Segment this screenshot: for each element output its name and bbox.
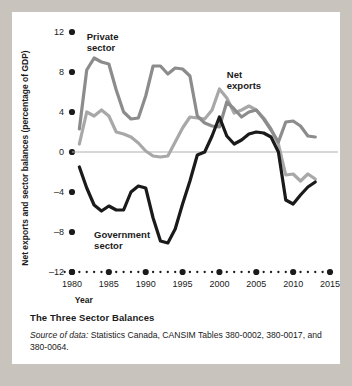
x-tick-label: 2015 [320,279,340,289]
x-tick-label: 1980 [62,279,82,289]
x-axis-dot [189,271,191,273]
x-axis-dot [233,271,235,273]
x-axis-dot [204,271,206,273]
x-axis-dot [63,271,65,273]
x-axis-dot [167,271,169,273]
x-tick-marker [69,269,75,275]
y-tick-label: 4 [59,107,64,117]
y-tick-marker [69,69,75,75]
x-tick-marker [253,269,259,275]
x-axis-dot [174,271,176,273]
x-tick-label: 1985 [99,279,119,289]
y-tick-label: 0 [59,147,64,157]
x-axis-dot [159,271,161,273]
y-axis-title: Net exports and sector balances (percent… [20,50,30,266]
x-tick-marker [106,269,112,275]
x-tick-label: 2000 [209,279,229,289]
series-annotation-government-sector: Governmentsector [94,229,151,251]
x-tick-marker [216,269,222,275]
x-axis-dot [78,271,80,273]
x-axis-dot [152,271,154,273]
x-tick-label: 2005 [246,279,266,289]
caption-source: Source of data: Statistics Canada, CANSI… [30,330,330,354]
x-axis-dot [307,271,309,273]
x-axis-dot [115,271,117,273]
x-tick-marker [327,269,333,275]
figure-caption: The Three Sector Balances Source of data… [30,312,330,354]
y-tick-marker [69,109,75,115]
x-axis-dot [248,271,250,273]
x-axis-dot [226,271,228,273]
x-axis-dot [321,271,323,273]
y-tick-marker [69,29,75,35]
x-axis-dot [86,271,88,273]
y-tick-label: –8 [54,227,64,237]
x-tick-marker [290,269,296,275]
x-axis-dot [93,271,95,273]
x-tick-marker [143,269,149,275]
x-axis-dot [211,271,213,273]
series-annotation-private-sector: Privatesector [87,31,119,53]
x-axis-dot [277,271,279,273]
series-annotation-net-exports: Netexports [227,69,261,91]
y-tick-label: –12 [49,267,64,277]
x-axis-dot [299,271,301,273]
three-sector-balances-chart: 12840–4–8–12Net exports and sector balan… [12,12,340,312]
x-axis-dot [240,271,242,273]
y-tick-label: –4 [54,187,64,197]
source-lead: Source of data: [30,330,88,340]
y-axis: 12840–4–8–12 [49,27,75,277]
x-axis-dot [285,271,287,273]
x-tick-marker [179,269,185,275]
x-axis-dot [130,271,132,273]
x-tick-label: 1990 [136,279,156,289]
x-axis-dot [314,271,316,273]
x-tick-label: 2010 [283,279,303,289]
x-axis-title: Year [75,295,94,305]
figure-panel: 12840–4–8–12Net exports and sector balan… [12,12,340,364]
x-axis-dot [263,271,265,273]
x-tick-label: 1995 [173,279,193,289]
x-axis-dot [100,271,102,273]
x-axis: 19801985199019952000200520102015 [62,269,340,289]
x-axis-dot [196,271,198,273]
x-axis-dot [137,271,139,273]
y-tick-label: 8 [59,67,64,77]
chart-plot-area: 12840–4–8–12Net exports and sector balan… [12,12,340,312]
x-axis-dot [122,271,124,273]
caption-title: The Three Sector Balances [30,312,330,323]
y-tick-marker [69,229,75,235]
y-tick-label: 12 [54,27,64,37]
x-axis-dot [270,271,272,273]
y-tick-marker [69,189,75,195]
